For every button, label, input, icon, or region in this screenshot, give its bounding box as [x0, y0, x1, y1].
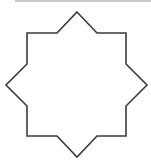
eight-pointed-star-outline [6, 12, 147, 157]
star-diagram [0, 0, 151, 165]
